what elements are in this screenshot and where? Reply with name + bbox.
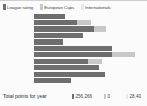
footer-total-european-cups: 0 xyxy=(104,94,110,100)
bar-segment[interactable] xyxy=(77,20,91,25)
footer-value-league-rating: 256,266 xyxy=(76,94,93,100)
bar-segment[interactable] xyxy=(34,78,71,83)
bar-segment[interactable] xyxy=(94,26,106,31)
bar-stack[interactable] xyxy=(34,65,99,70)
footer-swatch-internationals xyxy=(126,94,128,99)
bar-stack[interactable] xyxy=(34,33,83,38)
footer-value-european-cups: 0 xyxy=(108,94,111,100)
bar-stack[interactable] xyxy=(34,78,71,83)
bar-chart-plot-area xyxy=(0,13,147,89)
bar-stack[interactable] xyxy=(34,20,91,25)
bar-stack[interactable] xyxy=(34,59,102,64)
bar-stack[interactable] xyxy=(34,39,63,44)
footer-total-league-rating: 256,266 xyxy=(72,94,92,100)
bar-segment[interactable] xyxy=(34,14,65,19)
chart-widget: League rating European Cups Internationa… xyxy=(0,0,147,106)
bar-segment[interactable] xyxy=(34,65,99,70)
bar-segment[interactable] xyxy=(88,59,102,64)
bar-segment[interactable] xyxy=(34,52,112,57)
legend-label-internationals: Internationals xyxy=(85,5,111,10)
footer-value-internationals: 28,40 xyxy=(130,94,142,100)
footer-total-internationals: 28,40 xyxy=(126,94,141,100)
footer-swatch-european-cups xyxy=(104,94,106,99)
chart-legend: League rating European Cups Internationa… xyxy=(3,3,145,11)
legend-swatch-league-rating xyxy=(3,4,6,10)
bar-row xyxy=(0,77,147,83)
bar-segment[interactable] xyxy=(34,39,63,44)
bar-segment[interactable] xyxy=(34,20,77,25)
legend-label-league-rating: League rating xyxy=(7,5,33,10)
legend-item-league-rating[interactable]: League rating xyxy=(3,4,33,10)
legend-item-european-cups[interactable]: European Cups xyxy=(40,4,74,10)
bar-segment[interactable] xyxy=(112,52,136,57)
legend-item-internationals[interactable]: Internationals xyxy=(81,4,111,10)
bar-stack[interactable] xyxy=(34,72,105,77)
bar-stack[interactable] xyxy=(34,52,135,57)
bar-segment[interactable] xyxy=(34,26,94,31)
bar-stack[interactable] xyxy=(34,14,65,19)
bar-segment[interactable] xyxy=(34,46,112,51)
footer-total-label: Total points for year xyxy=(3,93,47,100)
bar-stack[interactable] xyxy=(34,26,106,31)
legend-swatch-internationals xyxy=(81,4,84,10)
legend-swatch-european-cups xyxy=(40,4,43,10)
top-divider xyxy=(0,0,147,1)
bar-segment[interactable] xyxy=(34,33,83,38)
bar-segment[interactable] xyxy=(34,59,88,64)
bar-segment[interactable] xyxy=(34,72,105,77)
legend-label-european-cups: European Cups xyxy=(44,5,74,10)
footer-swatch-league-rating xyxy=(72,94,74,99)
bar-stack[interactable] xyxy=(34,46,112,51)
chart-footer: Total points for year 256,266 0 28,40 xyxy=(0,92,147,102)
